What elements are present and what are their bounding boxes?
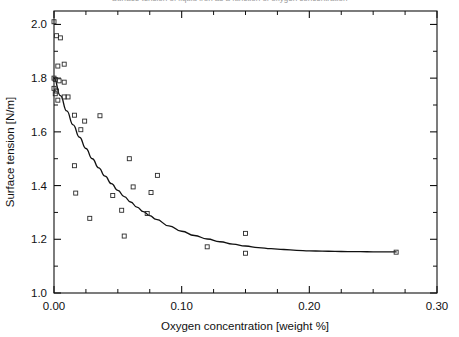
fitted-curve xyxy=(54,78,396,252)
data-point-marker xyxy=(79,128,83,132)
data-point-marker xyxy=(62,80,66,84)
data-point-marker xyxy=(111,194,115,198)
data-point-marker xyxy=(127,157,131,161)
scatter-markers-group xyxy=(52,20,398,256)
data-point-marker xyxy=(88,216,92,220)
x-tick-label: 0.30 xyxy=(426,300,448,312)
y-axis-minor-ticks xyxy=(54,51,437,266)
x-axis-title: Oxygen concentration [weight %] xyxy=(161,320,329,332)
y-axis-major-ticks xyxy=(54,24,437,293)
data-point-marker xyxy=(131,185,135,189)
data-point-marker xyxy=(62,62,66,66)
data-point-marker xyxy=(244,251,248,255)
data-point-marker xyxy=(122,234,126,238)
x-tick-label: 0.10 xyxy=(170,300,192,312)
data-point-marker xyxy=(155,173,159,177)
data-point-marker xyxy=(83,119,87,123)
data-point-marker xyxy=(120,208,124,212)
x-axis-minor-ticks xyxy=(86,11,405,293)
scatter-plot-svg: 0.000.100.200.30 1.01.21.41.61.82.0 Oxyg… xyxy=(0,0,459,337)
data-point-marker xyxy=(72,164,76,168)
y-tick-label: 1.2 xyxy=(31,233,47,245)
y-tick-label: 1.8 xyxy=(31,72,47,84)
y-tick-label: 2.0 xyxy=(31,18,47,30)
y-axis-title: Surface tension [N/m] xyxy=(4,97,16,208)
data-point-marker xyxy=(56,98,60,102)
chart-figure: Surface tension of liquid iron as a func… xyxy=(0,0,459,337)
y-tick-label: 1.0 xyxy=(31,287,47,299)
y-axis-tick-labels: 1.01.21.41.61.82.0 xyxy=(31,18,48,299)
clipped-figure-title: Surface tension of liquid iron as a func… xyxy=(0,0,459,7)
x-tick-label: 0.20 xyxy=(298,300,320,312)
data-point-marker xyxy=(98,114,102,118)
y-tick-label: 1.6 xyxy=(31,126,47,138)
x-axis-major-ticks xyxy=(54,11,437,293)
x-tick-label: 0.00 xyxy=(43,300,65,312)
plot-frame xyxy=(54,11,437,293)
data-point-marker xyxy=(149,191,153,195)
data-point-marker xyxy=(72,113,76,117)
y-tick-label: 1.4 xyxy=(31,180,48,192)
x-axis-tick-labels: 0.000.100.200.30 xyxy=(43,300,448,312)
clipped-figure-title-text: Surface tension of liquid iron as a func… xyxy=(112,0,348,3)
data-point-marker xyxy=(56,64,60,68)
data-point-marker xyxy=(244,231,248,235)
data-point-marker xyxy=(205,245,209,249)
data-point-marker xyxy=(74,191,78,195)
